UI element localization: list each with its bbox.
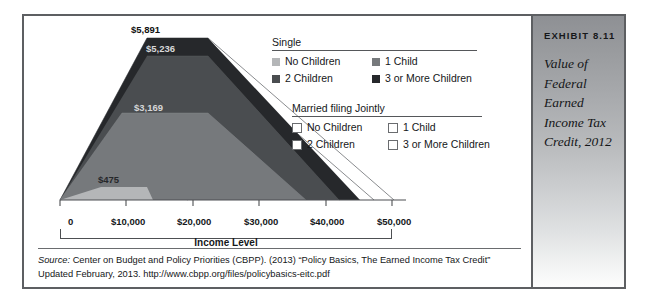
exhibit-side-panel: EXHIBIT 8.11 Value of Federal Earned Inc… bbox=[531, 16, 624, 287]
legend-label-single-1-child: 1 Child bbox=[385, 55, 418, 68]
legend-mfj-row-1: No Children 1 Child bbox=[292, 121, 502, 134]
legend-item-mfj-3-or-more-children[interactable]: 3 or More Children bbox=[388, 138, 502, 151]
exhibit-number: EXHIBIT 8.11 bbox=[544, 30, 618, 41]
legend-swatch-icon-single-3-or-more-children bbox=[372, 75, 380, 83]
legend-single-row-1: No Children 1 Child bbox=[272, 55, 487, 68]
x-tick-label-10000: $10,000 bbox=[111, 216, 145, 227]
legend-item-mfj-no-children[interactable]: No Children bbox=[292, 121, 388, 134]
legend-swatch-icon-mfj-1-child bbox=[388, 123, 398, 133]
x-axis-title: Income Level bbox=[36, 237, 416, 248]
x-tick-label-30000: $30,000 bbox=[244, 216, 278, 227]
value-label-peak-1: $3,169 bbox=[134, 102, 163, 113]
source-line-2: Updated February, 2013. http://www.cbpp.… bbox=[38, 269, 330, 279]
legend-item-mfj-2-children[interactable]: 2 Children bbox=[292, 138, 388, 151]
legend-single: Single No Children 1 Child 2 Children bbox=[272, 36, 487, 89]
legend-label-single-2-children: 2 Children bbox=[285, 72, 333, 85]
legend-swatch-icon-mfj-2-children bbox=[292, 140, 302, 150]
legend-single-heading: Single bbox=[272, 36, 477, 51]
chart-container: $5,891 $5,236 $3,169 $475 0 $10,000 $20,… bbox=[24, 16, 535, 245]
exhibit-title: Value of Federal Earned Income Tax Credi… bbox=[544, 54, 619, 152]
source-line-1: Center on Budget and Policy Priorities (… bbox=[70, 255, 490, 265]
legend-swatch-icon-mfj-3-or-more-children bbox=[388, 140, 398, 150]
legend-married-filing-jointly: Married filing Jointly No Children 1 Chi… bbox=[292, 102, 502, 155]
value-label-peak-3plus: $5,891 bbox=[131, 24, 160, 35]
legend-item-mfj-1-child[interactable]: 1 Child bbox=[388, 121, 502, 134]
legend-single-row-2: 2 Children 3 or More Children bbox=[272, 72, 487, 85]
legend-item-single-1-child[interactable]: 1 Child bbox=[372, 55, 477, 68]
legend-label-mfj-2-children: 2 Children bbox=[307, 138, 355, 151]
x-tick-label-0: 0 bbox=[68, 216, 73, 227]
source-prefix: Source: bbox=[38, 255, 70, 265]
x-tick-label-50000: $50,000 bbox=[377, 216, 411, 227]
legend-item-single-2-children[interactable]: 2 Children bbox=[272, 72, 372, 85]
legend-swatch-icon-single-no-children bbox=[272, 58, 280, 66]
legend-label-single-no-children: No Children bbox=[285, 55, 340, 68]
legend-item-single-3-or-more-children[interactable]: 3 or More Children bbox=[372, 72, 477, 85]
value-label-peak-2: $5,236 bbox=[146, 43, 175, 54]
x-tick-label-20000: $20,000 bbox=[177, 216, 211, 227]
legend-label-mfj-no-children: No Children bbox=[307, 121, 362, 134]
legend-swatch-icon-mfj-no-children bbox=[292, 123, 302, 133]
legend-label-mfj-3-or-more-children: 3 or More Children bbox=[403, 138, 490, 151]
legend-item-single-no-children[interactable]: No Children bbox=[272, 55, 372, 68]
legend-swatch-icon-single-1-child bbox=[372, 58, 380, 66]
legend-label-mfj-1-child: 1 Child bbox=[403, 121, 436, 134]
exhibit-page: $5,891 $5,236 $3,169 $475 0 $10,000 $20,… bbox=[0, 0, 653, 305]
legend-mfj-heading: Married filing Jointly bbox=[292, 102, 482, 117]
source-divider bbox=[38, 248, 521, 249]
legend-label-single-3-or-more-children: 3 or More Children bbox=[385, 72, 472, 85]
exhibit-frame: $5,891 $5,236 $3,169 $475 0 $10,000 $20,… bbox=[22, 14, 626, 289]
legend-swatch-icon-single-2-children bbox=[272, 75, 280, 83]
source-note: Source: Center on Budget and Policy Prio… bbox=[38, 254, 533, 281]
legend-mfj-row-2: 2 Children 3 or More Children bbox=[292, 138, 502, 151]
x-tick-label-40000: $40,000 bbox=[310, 216, 344, 227]
value-label-peak-0: $475 bbox=[98, 174, 119, 185]
